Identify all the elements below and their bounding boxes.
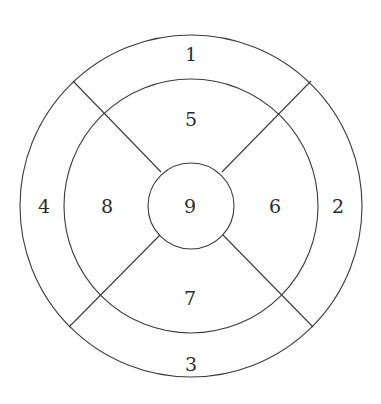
segment-label-6: 6 (269, 197, 281, 216)
segmented-circle-diagram: 1 2 3 4 5 6 7 8 9 (0, 0, 381, 404)
top-left-divider-line (73, 81, 161, 172)
segment-label-8: 8 (101, 197, 113, 216)
bottom-right-divider-line (223, 235, 313, 327)
segment-label-7: 7 (184, 289, 196, 308)
segment-label-4: 4 (38, 197, 50, 216)
segment-label-2: 2 (332, 197, 344, 216)
top-right-divider-line (222, 81, 311, 172)
segment-label-3: 3 (185, 355, 197, 374)
segment-label-1: 1 (185, 45, 197, 64)
segment-label-5: 5 (185, 110, 197, 129)
bottom-left-divider-line (69, 235, 160, 327)
segment-label-9: 9 (184, 197, 196, 216)
